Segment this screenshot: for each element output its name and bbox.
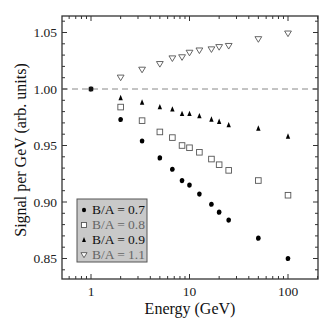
y-tick-label: 1.05 xyxy=(33,25,57,40)
open-square-marker-icon xyxy=(226,168,232,174)
open-triangle-down-marker-icon xyxy=(285,31,292,37)
open-square-marker-icon xyxy=(209,156,215,162)
y-axis-title: Signal per GeV (arb. units) xyxy=(12,63,30,236)
filled-triangle-up-marker-icon xyxy=(180,111,184,116)
filled-circle-marker-icon xyxy=(118,117,123,122)
series-b-a-0-9 xyxy=(118,95,290,139)
filled-circle-marker-icon xyxy=(256,236,261,241)
y-tick-label: 0.85 xyxy=(33,251,57,266)
open-square-marker-icon xyxy=(118,104,124,110)
filled-circle-marker-icon xyxy=(82,208,86,213)
open-triangle-down-marker-icon xyxy=(139,67,146,73)
filled-circle-marker-icon xyxy=(197,191,202,196)
x-tick-label: 1 xyxy=(88,284,95,299)
x-tick-label: 100 xyxy=(278,284,299,299)
open-square-marker-icon xyxy=(170,135,176,141)
open-square-marker-icon xyxy=(179,143,185,149)
legend-label: B/A = 0.8 xyxy=(92,217,145,232)
open-square-marker-icon xyxy=(256,178,262,184)
y-tick-label: 0.95 xyxy=(33,138,57,153)
filled-circle-marker-icon xyxy=(209,202,214,207)
y-axis: 0.850.900.951.001.05 xyxy=(33,21,318,270)
y-tick-label: 0.90 xyxy=(33,195,57,210)
open-triangle-down-marker-icon xyxy=(255,37,262,43)
open-triangle-down-marker-icon xyxy=(169,56,176,62)
open-square-marker-icon xyxy=(139,118,145,124)
open-triangle-down-marker-icon xyxy=(216,45,223,51)
filled-circle-marker-icon xyxy=(180,178,185,183)
filled-triangle-up-marker-icon xyxy=(140,99,144,104)
series-b-a-0-8 xyxy=(118,104,291,198)
legend-item-1: B/A = 0.8 xyxy=(81,217,145,232)
y-tick-label: 1.00 xyxy=(33,82,57,97)
legend: B/A = 0.7 B/A = 0.8 B/A = 0.9 B/A = 1.1 xyxy=(77,199,147,262)
filled-circle-marker-icon xyxy=(158,155,163,160)
filled-triangle-up-marker-icon xyxy=(170,106,174,111)
open-square-marker-icon xyxy=(197,149,203,155)
filled-triangle-up-marker-icon xyxy=(118,95,122,100)
legend-label: B/A = 0.9 xyxy=(92,232,145,247)
open-triangle-down-marker-icon xyxy=(179,55,186,61)
filled-triangle-up-marker-icon xyxy=(286,133,290,138)
open-square-marker-icon xyxy=(157,129,163,135)
reference-point-marker-icon xyxy=(89,87,93,91)
open-square-marker-icon xyxy=(187,145,193,151)
filled-circle-marker-icon xyxy=(286,256,291,261)
filled-triangle-up-marker-icon xyxy=(256,125,260,130)
series-b-a-1-1 xyxy=(117,31,291,81)
filled-circle-marker-icon xyxy=(140,138,145,143)
filled-triangle-up-marker-icon xyxy=(217,119,221,124)
open-square-marker-icon xyxy=(81,222,86,227)
scatter-chart: 0.850.900.951.001.05 110100 Energy (GeV)… xyxy=(0,0,331,328)
filled-triangle-up-marker-icon xyxy=(187,111,191,116)
open-triangle-down-marker-icon xyxy=(208,47,215,53)
filled-circle-marker-icon xyxy=(170,167,175,172)
legend-label: B/A = 0.7 xyxy=(92,202,145,217)
filled-circle-marker-icon xyxy=(217,210,222,215)
filled-triangle-up-marker-icon xyxy=(158,104,162,109)
filled-triangle-up-marker-icon xyxy=(197,113,201,118)
legend-item-0: B/A = 0.7 xyxy=(82,202,145,217)
open-square-marker-icon xyxy=(216,162,222,168)
x-tick-label: 10 xyxy=(183,284,197,299)
open-triangle-down-marker-icon xyxy=(117,75,124,81)
legend-item-2: B/A = 0.9 xyxy=(82,232,145,247)
filled-triangle-up-marker-icon xyxy=(209,116,213,121)
open-triangle-down-marker-icon xyxy=(225,43,232,49)
x-axis-title: Energy (GeV) xyxy=(145,300,236,318)
filled-triangle-up-marker-icon xyxy=(226,122,230,127)
open-square-marker-icon xyxy=(285,192,291,198)
open-triangle-down-marker-icon xyxy=(186,50,193,56)
filled-circle-marker-icon xyxy=(226,217,231,222)
open-triangle-down-marker-icon xyxy=(156,62,163,68)
filled-circle-marker-icon xyxy=(187,182,192,187)
legend-label: B/A = 1.1 xyxy=(92,247,145,262)
open-triangle-down-marker-icon xyxy=(196,48,203,54)
